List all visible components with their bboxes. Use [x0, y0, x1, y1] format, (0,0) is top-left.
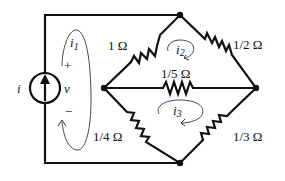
- source-current-label: i: [17, 81, 21, 96]
- mesh-i1-label: i1: [70, 35, 79, 52]
- current-source-arrow-icon: [40, 74, 50, 84]
- resistor-third-ohm: [180, 88, 256, 163]
- node-right: [253, 85, 259, 91]
- resistor-third-ohm-label: 1/3 Ω: [233, 129, 263, 144]
- node-bottom: [177, 160, 183, 166]
- resistor-half-ohm-label: 1/2 Ω: [233, 37, 263, 52]
- resistor-quarter-ohm: [104, 88, 180, 163]
- node-left: [101, 85, 107, 91]
- resistor-1-ohm-label: 1 Ω: [108, 38, 127, 53]
- source-minus-label: −: [65, 104, 72, 119]
- resistor-quarter-ohm-label: 1/4 Ω: [93, 129, 123, 144]
- resistor-fifth-ohm-label: 1/5 Ω: [161, 66, 191, 81]
- resistor-fifth-ohm: [104, 82, 256, 94]
- node-top: [177, 12, 183, 18]
- mesh-i2-label: i2: [176, 42, 185, 58]
- mesh-i3-label: i3: [173, 103, 182, 119]
- source-voltage-label: v: [64, 81, 70, 96]
- source-plus-label: +: [64, 58, 71, 73]
- circuit-diagram: i v + − i1 i2 i3 1 Ω 1/2 Ω 1/5 Ω 1/4 Ω 1…: [0, 0, 285, 181]
